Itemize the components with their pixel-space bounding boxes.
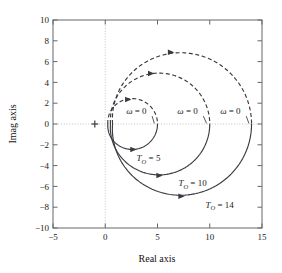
y-tick-label: 2 [45, 98, 50, 108]
y-tick-label: −10 [35, 223, 50, 233]
y-axis-title: Imag axis [7, 104, 18, 143]
x-axis-title: Real axis [139, 253, 176, 264]
y-tick-label: −4 [39, 161, 49, 171]
series-label-2: TO = 14 [206, 200, 235, 211]
y-tick-label: 0 [45, 119, 50, 129]
omega-zero-label-large: ω = 0 [220, 106, 241, 116]
x-tick-label: 5 [155, 232, 160, 242]
x-tick-label: 15 [258, 232, 268, 242]
y-tick-label: 6 [45, 57, 50, 67]
x-tick-label: 10 [205, 232, 215, 242]
curve-lower-0 [108, 124, 158, 149]
markers [91, 121, 98, 128]
y-tick-label: −6 [39, 182, 49, 192]
y-tick-label: 8 [45, 36, 50, 46]
cross-marker [91, 121, 98, 128]
direction-arrow [130, 147, 136, 152]
direction-arrow [178, 194, 184, 199]
y-tick-label: −2 [39, 140, 49, 150]
x-tick-label: −5 [48, 232, 58, 242]
y-tick-label: 10 [40, 15, 50, 25]
series-label-0: TO = 5 [137, 153, 161, 164]
omega-zero-label-mid: ω = 0 [177, 106, 198, 116]
direction-arrow [125, 97, 131, 102]
nyquist-plot: −50510151086420−2−4−6−8−10 TO = 5TO = 10… [0, 0, 282, 273]
chart-text-labels: TO = 5TO = 10TO = 14ω = 0ω = 0ω = 0 [126, 106, 249, 211]
figure-container: −50510151086420−2−4−6−8−10 TO = 5TO = 10… [0, 0, 282, 273]
omega-zero-label-small: ω = 0 [126, 106, 147, 116]
x-tick-label: 0 [103, 232, 108, 242]
y-tick-label: 4 [45, 78, 50, 88]
y-tick-label: −8 [39, 202, 49, 212]
series-label-1: TO = 10 [178, 178, 207, 189]
direction-arrow [156, 173, 162, 178]
direction-arrow [168, 50, 174, 55]
direction-arrow [148, 71, 154, 76]
